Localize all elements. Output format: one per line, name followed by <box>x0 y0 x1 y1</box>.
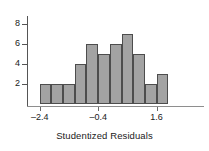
y-axis-tick-label: 2 <box>2 79 20 88</box>
histogram-bar <box>86 44 98 104</box>
histogram-bar <box>122 34 134 104</box>
y-axis-tick-label: 8 <box>2 19 20 28</box>
x-axis-tick <box>98 107 99 111</box>
y-axis-tick-label: 4 <box>2 59 20 68</box>
histogram-chart: 2468 –2.4–0.41.6 Studentized Residuals <box>0 0 209 151</box>
histogram-bar <box>75 64 87 104</box>
x-axis-tick-label: –2.4 <box>25 112 55 122</box>
histogram-bar <box>110 44 122 104</box>
histogram-bar <box>145 84 157 104</box>
histogram-bar <box>133 54 145 104</box>
histogram-bar <box>63 84 75 104</box>
plot-area <box>28 18 180 104</box>
histogram-bar <box>157 74 169 104</box>
x-axis-tick-label: 1.6 <box>142 112 172 122</box>
x-axis-title: Studentized Residuals <box>0 130 209 141</box>
histogram-bar <box>51 84 63 104</box>
x-axis-tick <box>157 107 158 111</box>
x-axis-tick-label: –0.4 <box>83 112 113 122</box>
y-axis-tick-label: 6 <box>2 39 20 48</box>
histogram-bar <box>40 84 52 104</box>
x-axis-tick <box>40 107 41 111</box>
histogram-bar <box>98 54 110 104</box>
x-axis-line <box>27 106 204 107</box>
